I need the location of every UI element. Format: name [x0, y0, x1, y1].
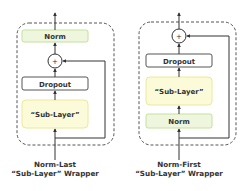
caption-line1: Norm-First — [157, 160, 201, 169]
wrapper-diagrams: “Sub-Layer” Dropout + Norm Norm-Last “Su… — [0, 0, 251, 191]
dropout-label: Dropout — [39, 81, 72, 89]
norm-label: Norm — [44, 33, 65, 41]
add-symbol: + — [52, 58, 58, 66]
caption-line2: “Sub-Layer” Wrapper — [135, 169, 223, 178]
norm-last-diagram: “Sub-Layer” Dropout + Norm Norm-Last “Su… — [11, 13, 114, 178]
sublayer-label: “Sub-Layer” — [154, 88, 203, 96]
dropout-label: Dropout — [163, 58, 196, 66]
caption-line2: “Sub-Layer” Wrapper — [11, 169, 99, 178]
norm-label: Norm — [168, 118, 189, 126]
norm-first-diagram: Norm “Sub-Layer” Dropout + Norm-First “S… — [135, 13, 236, 178]
caption-line1: Norm-Last — [34, 160, 77, 169]
sublayer-label: “Sub-Layer” — [30, 111, 79, 119]
add-symbol: + — [176, 33, 182, 41]
